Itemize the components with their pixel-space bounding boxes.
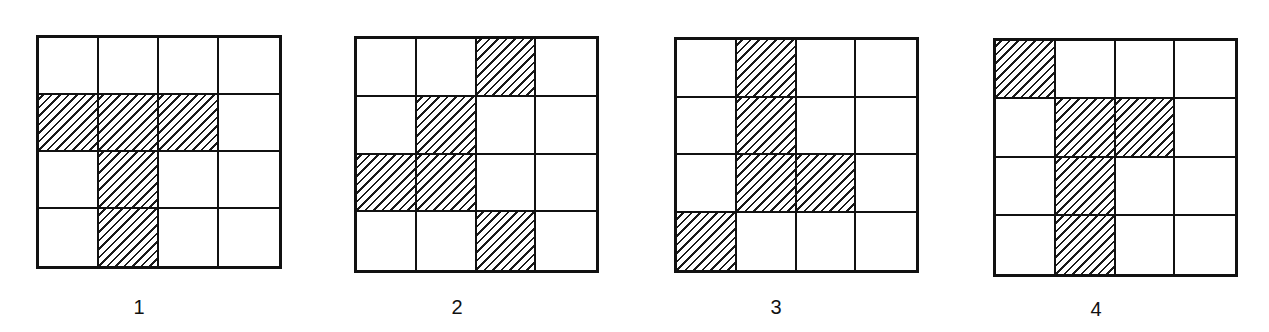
empty-cell-r3-c3	[536, 212, 596, 270]
empty-cell-r3-c3	[856, 213, 916, 271]
shaded-cell-r2-c1	[417, 155, 477, 213]
empty-cell-r1-c0	[357, 97, 417, 155]
shaded-cell-r3-c2	[477, 212, 537, 270]
empty-cell-r1-c0	[677, 98, 737, 156]
empty-cell-r2-c0	[677, 155, 737, 213]
shaded-cell-r1-c0	[39, 95, 99, 152]
figure-label-1: 1	[119, 296, 159, 318]
empty-cell-r3-c3	[219, 209, 279, 266]
shaded-cell-r2-c1	[99, 152, 159, 209]
empty-cell-r3-c0	[39, 209, 99, 266]
empty-cell-r0-c0	[39, 38, 99, 95]
empty-cell-r3-c1	[417, 212, 477, 270]
empty-cell-r0-c1	[99, 38, 159, 95]
empty-cell-r0-c0	[357, 39, 417, 97]
empty-cell-r3-c3	[1175, 216, 1235, 274]
empty-cell-r0-c2	[797, 40, 857, 98]
grid-1	[36, 35, 282, 269]
shaded-cell-r1-c2	[1116, 99, 1176, 157]
empty-cell-r0-c3	[219, 38, 279, 95]
grid-4	[993, 38, 1238, 277]
empty-cell-r3-c0	[357, 212, 417, 270]
shaded-cell-r1-c1	[417, 97, 477, 155]
shaded-cell-r0-c2	[477, 39, 537, 97]
empty-cell-r1-c2	[797, 98, 857, 156]
empty-cell-r2-c2	[1116, 158, 1176, 216]
grid-2	[354, 36, 599, 273]
empty-cell-r2-c0	[39, 152, 99, 209]
empty-cell-r1-c3	[536, 97, 596, 155]
shaded-cell-r1-c1	[737, 98, 797, 156]
empty-cell-r0-c0	[677, 40, 737, 98]
empty-cell-r3-c2	[159, 209, 219, 266]
empty-cell-r3-c0	[996, 216, 1056, 274]
shaded-cell-r0-c0	[996, 41, 1056, 99]
shaded-cell-r2-c2	[797, 155, 857, 213]
empty-cell-r1-c3	[219, 95, 279, 152]
empty-cell-r1-c3	[1175, 99, 1235, 157]
shaded-cell-r3-c1	[1056, 216, 1116, 274]
empty-cell-r2-c0	[996, 158, 1056, 216]
empty-cell-r0-c2	[1116, 41, 1176, 99]
figure-label-3: 3	[756, 296, 796, 318]
empty-cell-r1-c0	[996, 99, 1056, 157]
empty-cell-r0-c3	[536, 39, 596, 97]
empty-cell-r2-c2	[477, 155, 537, 213]
figure-label-2: 2	[437, 296, 477, 318]
shaded-cell-r0-c1	[737, 40, 797, 98]
empty-cell-r3-c1	[737, 213, 797, 271]
shaded-cell-r2-c0	[357, 155, 417, 213]
shaded-cell-r1-c1	[99, 95, 159, 152]
empty-cell-r2-c3	[219, 152, 279, 209]
empty-cell-r3-c2	[1116, 216, 1176, 274]
empty-cell-r2-c3	[1175, 158, 1235, 216]
empty-cell-r0-c3	[856, 40, 916, 98]
figure-label-4: 4	[1076, 298, 1116, 320]
shaded-cell-r2-c1	[737, 155, 797, 213]
shaded-cell-r1-c1	[1056, 99, 1116, 157]
shaded-cell-r3-c0	[677, 213, 737, 271]
empty-cell-r2-c2	[159, 152, 219, 209]
empty-cell-r0-c1	[417, 39, 477, 97]
empty-cell-r0-c2	[159, 38, 219, 95]
grid-3	[674, 37, 919, 273]
shaded-cell-r2-c1	[1056, 158, 1116, 216]
empty-cell-r1-c2	[477, 97, 537, 155]
shaded-cell-r3-c1	[99, 209, 159, 266]
empty-cell-r2-c3	[856, 155, 916, 213]
empty-cell-r0-c1	[1056, 41, 1116, 99]
empty-cell-r2-c3	[536, 155, 596, 213]
shaded-cell-r1-c2	[159, 95, 219, 152]
empty-cell-r0-c3	[1175, 41, 1235, 99]
empty-cell-r1-c3	[856, 98, 916, 156]
empty-cell-r3-c2	[797, 213, 857, 271]
